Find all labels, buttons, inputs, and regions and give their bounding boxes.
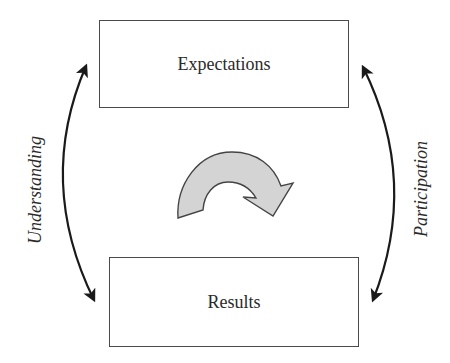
clockwise-cycle-arrow-icon bbox=[178, 152, 293, 218]
expectations-label: Expectations bbox=[178, 54, 271, 75]
understanding-arrow bbox=[63, 66, 94, 300]
results-label: Results bbox=[207, 292, 260, 313]
expectations-box: Expectations bbox=[99, 20, 349, 108]
understanding-label: Understanding bbox=[25, 136, 46, 244]
results-box: Results bbox=[109, 257, 359, 347]
participation-arrow bbox=[363, 67, 394, 300]
participation-label: Participation bbox=[411, 141, 432, 237]
